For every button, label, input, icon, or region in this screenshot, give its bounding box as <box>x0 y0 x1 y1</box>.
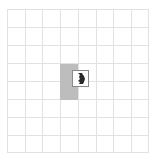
grid-line <box>7 152 149 153</box>
grid-line <box>7 45 149 46</box>
grid-line <box>7 135 149 136</box>
grid-line <box>7 99 149 100</box>
grid-line <box>7 63 149 64</box>
grid-line <box>7 117 149 118</box>
game-piece[interactable] <box>72 70 89 87</box>
grid-line <box>7 27 149 28</box>
grid-line <box>7 9 149 10</box>
rhino-icon <box>73 71 88 86</box>
